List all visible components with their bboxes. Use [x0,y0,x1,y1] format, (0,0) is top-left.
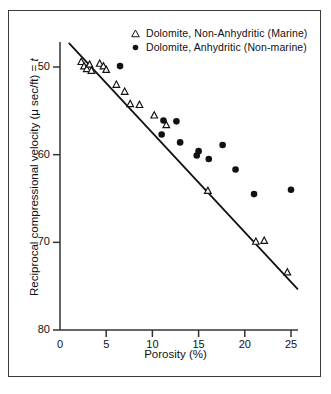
circle-filled-icon [128,43,142,52]
legend-label-nonmarine: Dolomite, Anhydritic (Non-marine) [146,41,307,53]
y-axis-title-text: Reciprocal compressional velocity (μ sec… [28,62,40,296]
legend: Dolomite, Non-Anhydritic (Marine) Dolomi… [128,26,307,54]
legend-label-marine: Dolomite, Non-Anhydritic (Marine) [146,27,307,39]
x-axis-title: Porosity (%) [60,348,291,360]
figure-border [8,10,321,377]
triangle-open-icon [128,29,142,38]
y-tick-label: 80 [20,323,50,335]
legend-item-nonmarine: Dolomite, Anhydritic (Non-marine) [128,40,307,54]
legend-item-marine: Dolomite, Non-Anhydritic (Marine) [128,26,307,40]
y-axis-title: Reciprocal compressional velocity (μ sec… [28,66,40,296]
figure-panel: 50607080 0510152025 Porosity (%) Recipro… [0,0,331,394]
y-axis-title-symbol: t [28,58,40,61]
